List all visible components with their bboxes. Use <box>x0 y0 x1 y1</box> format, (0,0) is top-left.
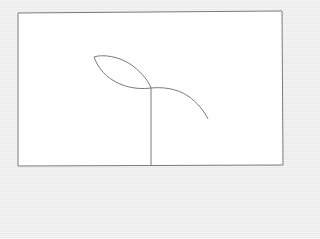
drawing-canvas <box>0 0 295 178</box>
sketch-svg <box>0 0 295 178</box>
